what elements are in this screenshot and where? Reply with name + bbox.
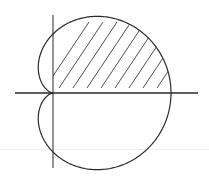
hatch-line	[129, 22, 173, 88]
hatch-line	[101, 22, 145, 88]
hatch-lines	[45, 22, 209, 88]
cardioid-diagram	[0, 0, 209, 182]
hatch-line	[73, 22, 117, 88]
hatch-line	[143, 22, 187, 88]
hatch-line	[87, 22, 131, 88]
hatch-line	[59, 22, 103, 88]
hatch-line	[115, 22, 159, 88]
hatch-line	[171, 22, 209, 88]
hatch-line	[45, 22, 89, 88]
hatch-line	[157, 22, 201, 88]
